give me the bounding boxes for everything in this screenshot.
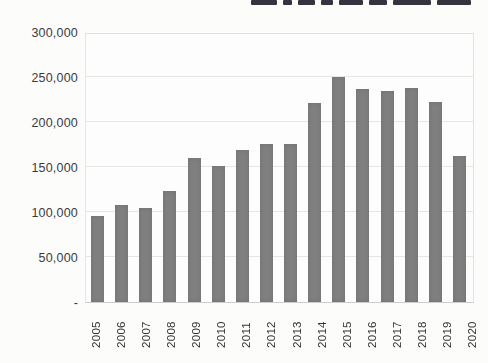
x-tick-label: 2010 xyxy=(215,306,228,348)
title-letter-bottoms xyxy=(369,0,387,5)
bar-2012 xyxy=(260,144,273,302)
x-tick-label: 2008 xyxy=(165,306,178,348)
bar-2013 xyxy=(284,144,297,302)
x-tick-label: 2009 xyxy=(190,306,203,348)
bar-2005 xyxy=(91,216,104,302)
x-tick-label: 2005 xyxy=(90,306,103,348)
bar-2015 xyxy=(332,77,345,302)
y-tick-label: 50,000 xyxy=(0,250,78,266)
y-tick-label: 150,000 xyxy=(0,160,78,176)
y-tick-label: - xyxy=(0,295,78,311)
bars-container xyxy=(86,34,473,302)
x-tick-label: 2018 xyxy=(416,306,429,348)
x-tick-label: 2015 xyxy=(341,306,354,348)
cropped-title-fragment xyxy=(251,0,471,6)
bar-2019 xyxy=(429,102,442,302)
bar-2014 xyxy=(308,103,321,302)
x-tick-label: 2017 xyxy=(391,306,404,348)
bar-2011 xyxy=(236,150,249,302)
x-axis: 2005200620072008200920102011201220132014… xyxy=(85,306,486,348)
x-tick-label: 2007 xyxy=(140,306,153,348)
title-letter-bottoms xyxy=(298,0,315,5)
title-letter-bottoms xyxy=(321,0,333,5)
bar-2016 xyxy=(356,89,369,302)
x-tick-label: 2019 xyxy=(441,306,454,348)
bar-chart: 300,000250,000200,000150,000100,00050,00… xyxy=(0,0,488,363)
title-letter-bottoms xyxy=(393,0,431,5)
x-tick-label: 2012 xyxy=(265,306,278,348)
plot-area xyxy=(85,33,474,303)
bar-2017 xyxy=(381,91,394,302)
y-tick-label: 300,000 xyxy=(0,25,78,41)
y-axis: 300,000250,000200,000150,000100,00050,00… xyxy=(0,33,79,303)
title-letter-bottoms xyxy=(251,0,277,5)
x-tick-label: 2013 xyxy=(291,306,304,348)
y-tick-label: 200,000 xyxy=(0,115,78,131)
x-tick-label: 2011 xyxy=(240,306,253,348)
bar-2008 xyxy=(163,191,176,302)
title-letter-bottoms xyxy=(437,0,471,5)
bar-2009 xyxy=(188,158,201,302)
x-tick-label: 2020 xyxy=(466,306,479,348)
bar-2018 xyxy=(405,88,418,302)
x-tick-label: 2006 xyxy=(115,306,128,348)
bar-2006 xyxy=(115,205,128,302)
y-tick-label: 250,000 xyxy=(0,70,78,86)
x-tick-label: 2014 xyxy=(316,306,329,348)
bar-2020 xyxy=(453,156,466,302)
bar-2007 xyxy=(139,208,152,302)
title-letter-bottoms xyxy=(339,0,363,5)
bar-2010 xyxy=(212,166,225,302)
title-letter-bottoms xyxy=(283,0,292,5)
y-tick-label: 100,000 xyxy=(0,205,78,221)
x-tick-label: 2016 xyxy=(366,306,379,348)
